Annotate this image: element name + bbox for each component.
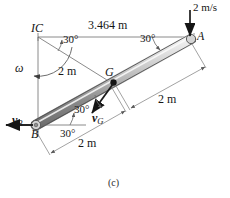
figure-caption: (c) [108,178,119,188]
label-g: G [105,66,114,78]
label-dimension-3464m: 3.464 m [88,19,127,31]
label-angle-at-b: 30° [60,128,75,139]
label-b: B [31,128,38,140]
label-angle-at-g: 30° [74,104,89,115]
label-velocity-2ms: 2 m/s [193,2,217,13]
label-angle-at-a: 30° [140,33,155,44]
figure-container: IC A B G 2 m/s vB vG ω 3.464 m 2 m 2 m 2… [0,0,230,198]
ext-line-a-right [192,44,206,68]
label-ic: IC [31,22,43,34]
label-angle-at-ic: 30° [63,34,78,45]
label-omega: ω [15,62,23,74]
label-dimension-g-to-a: 2 m [158,93,176,105]
label-dimension-b-to-g: 2 m [78,137,96,149]
pin-joint-a [186,34,195,43]
label-vb-subscript: B [17,118,22,128]
angle-arc-at-ic [58,40,62,51]
label-a: A [197,30,204,42]
label-vg-subscript: G [97,116,103,126]
label-vb: vB [12,114,23,128]
label-dimension-ic-to-g: 2 m [58,65,76,77]
label-vg: vG [92,112,104,126]
